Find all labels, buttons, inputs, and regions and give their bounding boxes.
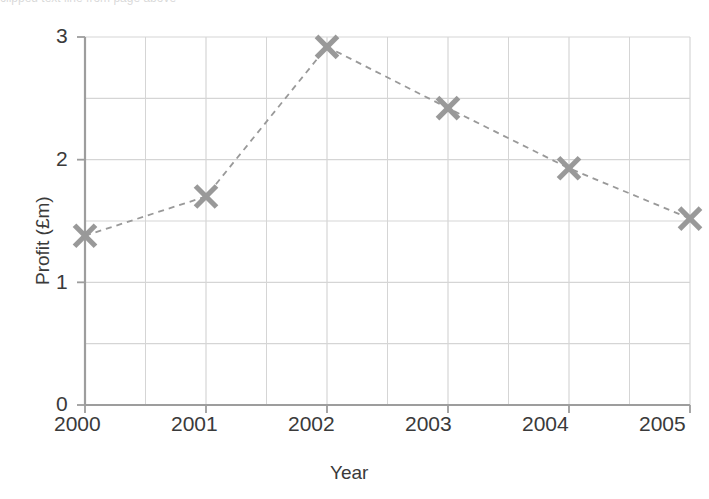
y-axis-title: Profit (£m) (32, 196, 54, 285)
xtick-label-2003: 2003 (405, 412, 452, 436)
chart-figure: clipped text line from page above 3 2 1 … (0, 0, 709, 499)
xtick-label-2001: 2001 (171, 412, 218, 436)
x-axis-title: Year (330, 462, 368, 484)
plot-area (0, 0, 709, 499)
xtick-label-2005: 2005 (639, 412, 686, 436)
xtick-label-2002: 2002 (288, 412, 335, 436)
xtick-label-2000: 2000 (54, 412, 101, 436)
ytick-label-2: 2 (56, 147, 68, 171)
ytick-label-1: 1 (56, 270, 68, 294)
xtick-label-2004: 2004 (522, 412, 569, 436)
ytick-label-3: 3 (56, 24, 68, 48)
chart-canvas (0, 0, 709, 499)
